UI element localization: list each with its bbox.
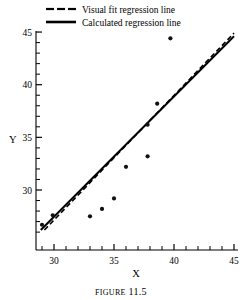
x-tick-label: 30 xyxy=(49,256,59,266)
y-axis-tick-labels: 30354045 xyxy=(23,28,33,196)
x-axis-tick-labels: 30354045 xyxy=(49,256,239,266)
scatter-point xyxy=(112,196,116,200)
scatter-point xyxy=(146,123,150,127)
y-tick-label: 40 xyxy=(23,80,33,90)
y-axis-title: Y xyxy=(9,134,17,145)
x-axis-ticks xyxy=(42,244,234,250)
scatter-point xyxy=(155,102,159,106)
scatter-point xyxy=(100,207,104,211)
scatter-point xyxy=(168,36,172,40)
legend-label-visual-fit: Visual fit regression line xyxy=(82,5,175,15)
caption-number: 11.5 xyxy=(126,286,147,297)
x-tick-label: 35 xyxy=(109,256,119,266)
y-tick-label: 35 xyxy=(23,133,33,143)
x-tick-label: 40 xyxy=(169,256,179,266)
scatter-point xyxy=(51,213,55,217)
calculated-regression-line xyxy=(41,36,234,230)
figure-chart: Visual fit regression line Calculated re… xyxy=(0,0,243,300)
y-tick-label: 45 xyxy=(23,28,33,38)
x-tick-label: 45 xyxy=(229,256,239,266)
scatter-points xyxy=(40,36,173,227)
chart-legend: Visual fit regression line Calculated re… xyxy=(46,5,181,28)
scatter-point xyxy=(146,154,150,158)
y-tick-label: 30 xyxy=(23,186,33,196)
scatter-point xyxy=(88,214,92,218)
legend-label-calculated: Calculated regression line xyxy=(82,18,181,28)
figure-caption: FIGURE 11.5 xyxy=(95,286,147,297)
regression-lines xyxy=(41,33,234,230)
scatter-point xyxy=(124,165,128,169)
caption-prefix: FIGURE xyxy=(95,288,126,297)
scatter-point xyxy=(40,223,44,227)
x-axis-title: X xyxy=(132,268,140,279)
y-axis-ticks xyxy=(36,32,42,232)
